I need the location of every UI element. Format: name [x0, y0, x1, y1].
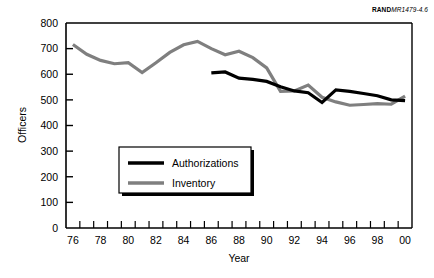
x-tick-label: 86	[205, 234, 217, 246]
x-tick-label: 78	[95, 234, 107, 246]
y-tick-label: 600	[40, 68, 58, 80]
line-chart: 0100200300400500600700800 76788082848688…	[0, 0, 434, 278]
x-tick-label: 84	[178, 234, 190, 246]
y-tick-label: 800	[40, 17, 58, 29]
x-tick-label: 76	[67, 234, 79, 246]
y-tick-label: 300	[40, 145, 58, 157]
y-tick-label: 500	[40, 94, 58, 106]
y-tick-label: 700	[40, 42, 58, 54]
y-tick-label: 100	[40, 196, 58, 208]
y-tick-label: 400	[40, 119, 58, 131]
x-tick-label: 96	[344, 234, 356, 246]
legend-label-inventory: Inventory	[172, 177, 216, 189]
x-tick-label: 90	[261, 234, 273, 246]
data-series-group	[73, 41, 405, 105]
x-tick-label: 00	[399, 234, 411, 246]
x-tick-label: 88	[233, 234, 245, 246]
x-tick-label: 98	[372, 234, 384, 246]
legend-label-authorizations: Authorizations	[172, 157, 239, 169]
x-axis-tick-labels: 76788082848688909294969800	[67, 234, 411, 246]
x-tick-label: 82	[150, 234, 162, 246]
y-axis-tick-labels: 0100200300400500600700800	[40, 17, 58, 234]
x-axis-ticks	[80, 221, 398, 228]
x-tick-label: 92	[289, 234, 301, 246]
series-line-authorizations	[211, 72, 405, 103]
y-axis-title: Officers	[16, 107, 28, 143]
x-axis-title: Year	[228, 252, 250, 264]
chart-legend: AuthorizationsInventory	[119, 147, 254, 196]
x-tick-label: 80	[122, 234, 134, 246]
series-line-inventory	[73, 41, 405, 105]
x-tick-label: 94	[316, 234, 328, 246]
chart-figure: RANDMR1479-4.6 0100200300400500600700800…	[0, 0, 434, 278]
axis-frame	[66, 23, 412, 228]
y-tick-label: 200	[40, 171, 58, 183]
y-tick-label: 0	[52, 222, 58, 234]
y-axis-ticks	[66, 49, 73, 203]
